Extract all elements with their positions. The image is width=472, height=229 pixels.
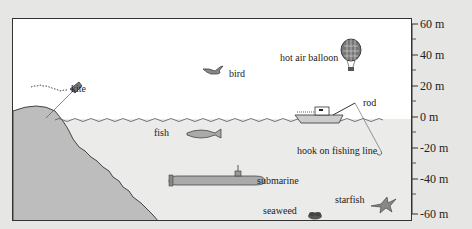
seaweed-icon: [308, 212, 322, 220]
tick-label-neg60: -60 m: [420, 208, 448, 220]
tick-label-60: 60 m: [420, 18, 444, 30]
tick-label-neg20: -20 m: [420, 142, 448, 154]
bird-icon: [203, 66, 223, 74]
label-submarine: submarine: [257, 176, 299, 186]
label-rod: rod: [363, 98, 376, 108]
hot-air-balloon-icon: [341, 39, 361, 71]
tick-label-0: 0 m: [420, 111, 438, 123]
submarine-icon: [169, 165, 265, 186]
scene-illustration: [13, 19, 412, 221]
label-starfish: starfish: [335, 195, 364, 205]
starfish-icon: [371, 197, 396, 213]
tick-label-neg40: -40 m: [420, 173, 448, 185]
label-fish: fish: [154, 128, 169, 138]
fish-icon: [187, 129, 221, 138]
label-kite: kite: [71, 84, 86, 94]
label-seaweed: seaweed: [263, 206, 297, 216]
cliff-shape: [13, 106, 159, 221]
tick-label-20: 20 m: [420, 80, 444, 92]
label-bird: bird: [229, 69, 245, 79]
label-hook: hook on fishing line: [297, 146, 377, 156]
diagram-frame: kite bird hot air balloon rod fish hook …: [12, 18, 412, 221]
altitude-axis: 60 m 40 m 20 m 0 m -20 m -40 m -60 m: [412, 18, 472, 229]
label-hot-air-balloon: hot air balloon: [280, 53, 338, 63]
tick-label-40: 40 m: [420, 49, 444, 61]
